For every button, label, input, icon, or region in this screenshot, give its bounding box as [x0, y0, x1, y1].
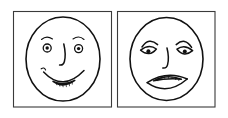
- drawing-canvas: Two hand-drawn faces: [0, 0, 228, 118]
- two-faces-illustration: [0, 0, 228, 118]
- happy-left-eye-icon: [43, 44, 51, 52]
- panel-sad: [118, 12, 216, 108]
- panel-happy: [14, 12, 112, 108]
- happy-face-head: [26, 17, 100, 101]
- happy-right-eye-icon: [75, 45, 83, 53]
